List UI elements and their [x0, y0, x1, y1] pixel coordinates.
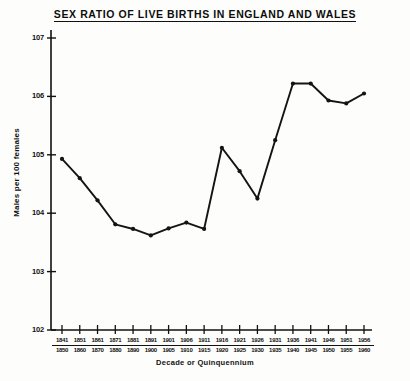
- data-point[interactable]: [255, 197, 259, 201]
- data-point[interactable]: [95, 198, 99, 202]
- data-point[interactable]: [60, 157, 64, 161]
- y-tick-label: 107: [18, 33, 44, 42]
- data-point[interactable]: [238, 169, 242, 173]
- data-point[interactable]: [220, 146, 224, 150]
- data-point[interactable]: [202, 227, 206, 231]
- data-point[interactable]: [344, 101, 348, 105]
- data-point[interactable]: [291, 81, 295, 85]
- y-axis-title: Males per 100 females: [12, 113, 21, 233]
- y-tick-label: 105: [18, 150, 44, 159]
- x-tick-label-end: 1960: [347, 346, 381, 355]
- data-point[interactable]: [149, 233, 153, 237]
- y-tick-label: 102: [18, 325, 44, 334]
- chart-figure: SEX RATIO OF LIVE BIRTHS IN ENGLAND AND …: [0, 0, 410, 381]
- plot-area: 102103104105106107 184118501851186018611…: [0, 0, 410, 381]
- data-point[interactable]: [131, 227, 135, 231]
- data-point[interactable]: [113, 222, 117, 226]
- series-line: [62, 84, 364, 236]
- chart-canvas: [0, 0, 410, 381]
- data-point[interactable]: [326, 98, 330, 102]
- data-point[interactable]: [78, 176, 82, 180]
- y-tick-label: 106: [18, 91, 44, 100]
- y-tick-label: 104: [18, 208, 44, 217]
- data-point[interactable]: [273, 138, 277, 142]
- x-axis-title: Decade or Quinquennium: [0, 358, 410, 367]
- x-tick-label-start: 1956: [354, 336, 374, 346]
- data-point[interactable]: [166, 226, 170, 230]
- y-tick-label: 103: [18, 267, 44, 276]
- data-point[interactable]: [362, 91, 366, 95]
- data-point[interactable]: [184, 220, 188, 224]
- x-tick-label: 19561960: [347, 336, 381, 354]
- data-point[interactable]: [309, 81, 313, 85]
